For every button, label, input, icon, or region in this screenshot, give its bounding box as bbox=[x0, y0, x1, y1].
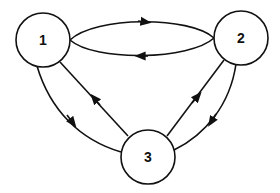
node-1: 1 bbox=[16, 13, 70, 67]
edge-3-to-2 bbox=[167, 60, 224, 136]
edge-1-to-3 bbox=[37, 66, 121, 152]
state-diagram: 1 2 3 bbox=[0, 0, 280, 193]
node-1-label: 1 bbox=[39, 32, 47, 48]
edge-3-to-1 bbox=[60, 62, 128, 136]
edge-2-to-1 bbox=[70, 38, 214, 56]
node-2: 2 bbox=[214, 11, 268, 65]
edge-1-to-2 bbox=[70, 21, 214, 40]
arrow-right-icon bbox=[138, 21, 146, 22]
arrow-up-right-icon bbox=[192, 96, 198, 103]
arrow-up-left-icon bbox=[94, 98, 100, 105]
arrow-down-left-icon bbox=[211, 114, 216, 122]
edge-2-to-3 bbox=[174, 64, 236, 150]
diagram-svg: 1 2 3 bbox=[0, 0, 280, 193]
node-3: 3 bbox=[121, 130, 175, 184]
node-3-label: 3 bbox=[144, 149, 152, 165]
node-2-label: 2 bbox=[237, 30, 245, 46]
